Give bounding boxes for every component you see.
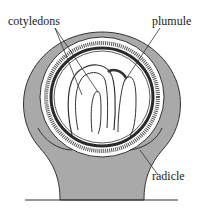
label-plumule: plumule (152, 14, 191, 29)
label-radicle: radicle (152, 169, 185, 184)
label-cotyledons: cotyledons (8, 14, 60, 29)
seed-diagram (0, 0, 205, 222)
